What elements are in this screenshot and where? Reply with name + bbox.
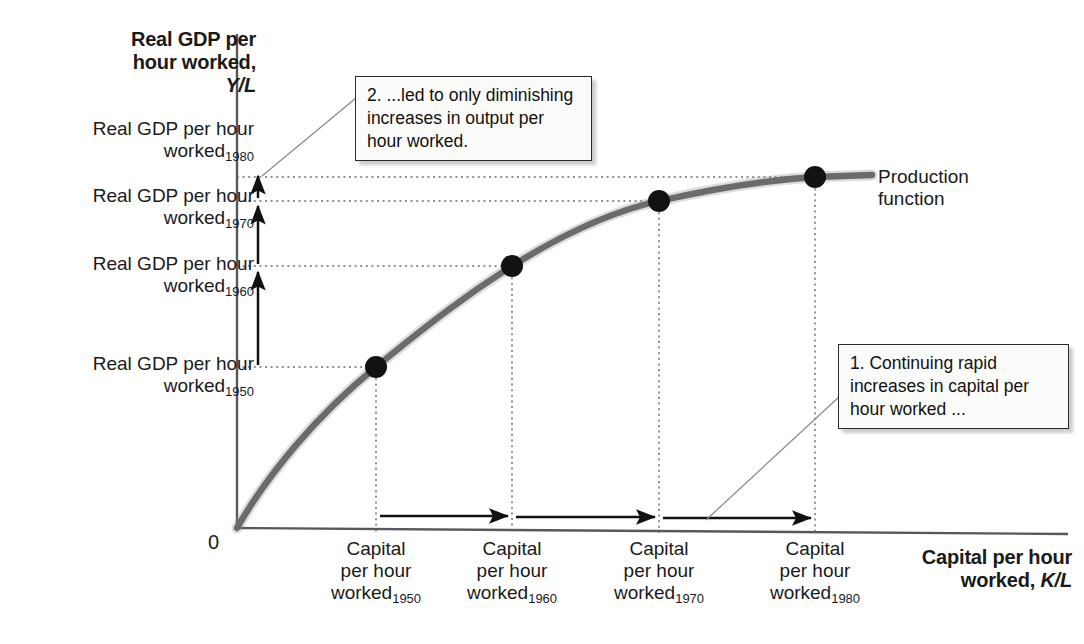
x-tick-label-1960: Capital per hour worked1960 [437,538,587,606]
y-tick-label-1980: Real GDP per hour worked1980 [28,118,254,164]
x-tick-label-1960-subscript: 1960 [528,591,557,606]
y-tick-label-1970: Real GDP per hour worked1970 [28,185,254,231]
callout-leader-lines [262,98,840,520]
x-tick-label-1950-subscript: 1950 [392,591,421,606]
y-tick-label-1950: Real GDP per hour worked1950 [28,353,254,399]
leader-line-callout-1 [706,396,840,520]
y-axis-title: Real GDP per hour worked,Y/L [84,28,256,98]
x-axis-title: Capital per hour worked, K/L [872,546,1072,592]
x-tick-label-1980-subscript: 1980 [831,591,860,606]
data-point-1960 [501,255,523,277]
production-function-curve [237,175,872,528]
production-function-figure: Real GDP per hour worked,Y/L Capital per… [0,0,1084,644]
x-axis-title-variable: K/L [1040,569,1072,591]
data-point-1980 [804,166,826,188]
x-tick-label-1970: Capital per hour worked1970 [584,538,734,606]
x-tick-label-1950: Capital per hour worked1950 [301,538,451,606]
y-axis-title-variable: Y/L [225,74,256,96]
callout-diminishing-increases: 2. ...led to only diminishing increases … [355,76,592,161]
y-tick-label-1970-subscript: 1970 [225,216,254,231]
data-points [365,166,826,378]
y-axis-title-text: Real GDP per hour worked, [131,28,256,73]
data-point-1950 [365,356,387,378]
y-tick-label-1960-subscript: 1960 [225,284,254,299]
x-tick-label-1970-subscript: 1970 [675,591,704,606]
y-tick-label-1960: Real GDP per hour worked1960 [28,253,254,299]
leader-line-callout-2 [262,98,356,176]
callout-capital-increases: 1. Continuing rapid increases in capital… [838,344,1069,429]
y-tick-label-1980-subscript: 1980 [225,149,254,164]
y-tick-label-1950-subscript: 1950 [225,384,254,399]
capital-gain-arrows [380,516,811,518]
production-function-label: Production function [878,166,1038,210]
horizontal-guide-lines [237,177,815,367]
x-tick-label-1980: Capital per hour worked1980 [740,538,890,606]
data-point-1970 [648,190,670,212]
origin-label: 0 [208,531,219,554]
